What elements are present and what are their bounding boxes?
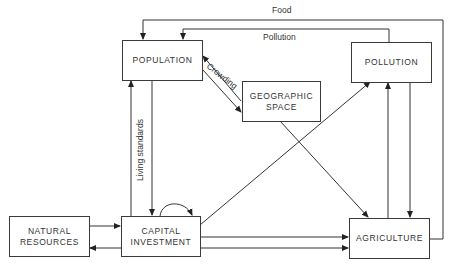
node-natural-resources: NATURAL RESOURCES: [9, 216, 90, 257]
node-pollution: POLLUTION: [351, 42, 432, 83]
node-capital-investment: CAPITAL INVESTMENT: [121, 216, 201, 257]
node-capital-investment-label-2: INVESTMENT: [131, 237, 192, 248]
node-capital-investment-label-1: CAPITAL: [142, 226, 181, 237]
edge-space-to-agriculture: [280, 121, 368, 217]
node-agriculture: AGRICULTURE: [349, 218, 430, 259]
edge-label-food: Food: [272, 5, 291, 15]
node-geographic-space-label-1: GEOGRAPHIC: [250, 91, 314, 102]
node-population: POPULATION: [122, 40, 203, 81]
node-natural-resources-label-1: NATURAL: [28, 226, 71, 237]
edge-label-pollution: Pollution: [263, 32, 296, 42]
node-geographic-space: GEOGRAPHIC SPACE: [242, 81, 321, 122]
node-geographic-space-label-2: SPACE: [266, 102, 297, 113]
edge-capital-self-loop: [160, 204, 192, 216]
node-population-label: POPULATION: [132, 55, 192, 66]
node-agriculture-label: AGRICULTURE: [356, 233, 423, 244]
node-pollution-label: POLLUTION: [365, 57, 419, 68]
edge-label-living-standards: Living standards: [135, 119, 145, 181]
node-natural-resources-label-2: RESOURCES: [20, 237, 79, 248]
